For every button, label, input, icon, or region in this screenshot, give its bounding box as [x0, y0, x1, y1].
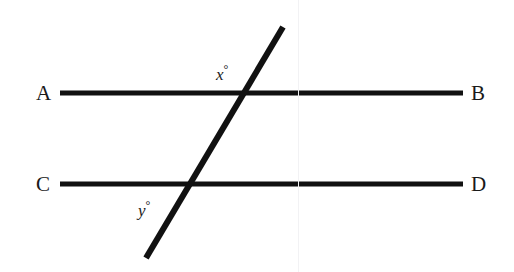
point-label-a: A [36, 83, 51, 104]
degree-symbol-y: ° [146, 198, 151, 212]
angle-label-x: x° [216, 63, 228, 83]
point-label-d: D [471, 174, 486, 195]
point-label-c: C [36, 174, 50, 195]
degree-symbol-x: ° [224, 62, 229, 76]
geometry-diagram: A B C D x° y° [0, 0, 514, 272]
angle-variable-x: x [216, 65, 224, 84]
diagram-background [0, 0, 514, 272]
angle-label-y: y° [138, 199, 150, 219]
diagram-canvas [0, 0, 514, 272]
angle-variable-y: y [138, 201, 146, 220]
point-label-b: B [471, 83, 485, 104]
